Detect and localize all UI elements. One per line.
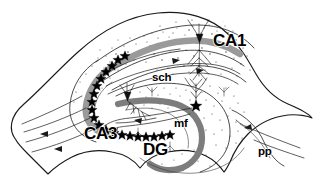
label-pp: pp: [258, 145, 272, 157]
dg-granule-cell-layer-infrapyramidal: [150, 164, 182, 170]
label-dg: DG: [143, 140, 168, 159]
label-ca1: CA1: [213, 31, 246, 50]
label-sch: sch: [152, 71, 171, 83]
hippocampus-circuit-figure: CA1 CA3 DG mf sch pp: [0, 0, 316, 184]
label-ca3: CA3: [84, 124, 117, 143]
label-mf: mf: [174, 117, 188, 129]
hippocampus-diagram-svg: CA1 CA3 DG mf sch pp: [0, 0, 316, 184]
